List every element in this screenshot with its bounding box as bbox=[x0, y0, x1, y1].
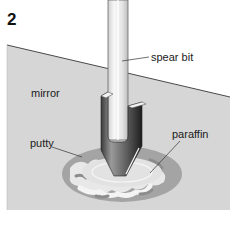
label-mirror: mirror bbox=[31, 88, 60, 99]
label-paraffin: paraffin bbox=[172, 129, 209, 140]
diagram-canvas bbox=[0, 0, 235, 225]
step-number: 2 bbox=[7, 11, 16, 28]
spear-bit-shaft bbox=[108, 0, 128, 140]
label-spear-bit: spear bit bbox=[151, 52, 193, 63]
label-putty: putty bbox=[30, 138, 54, 149]
illustration: 2 spear bit mirror putty paraffin bbox=[0, 0, 235, 225]
